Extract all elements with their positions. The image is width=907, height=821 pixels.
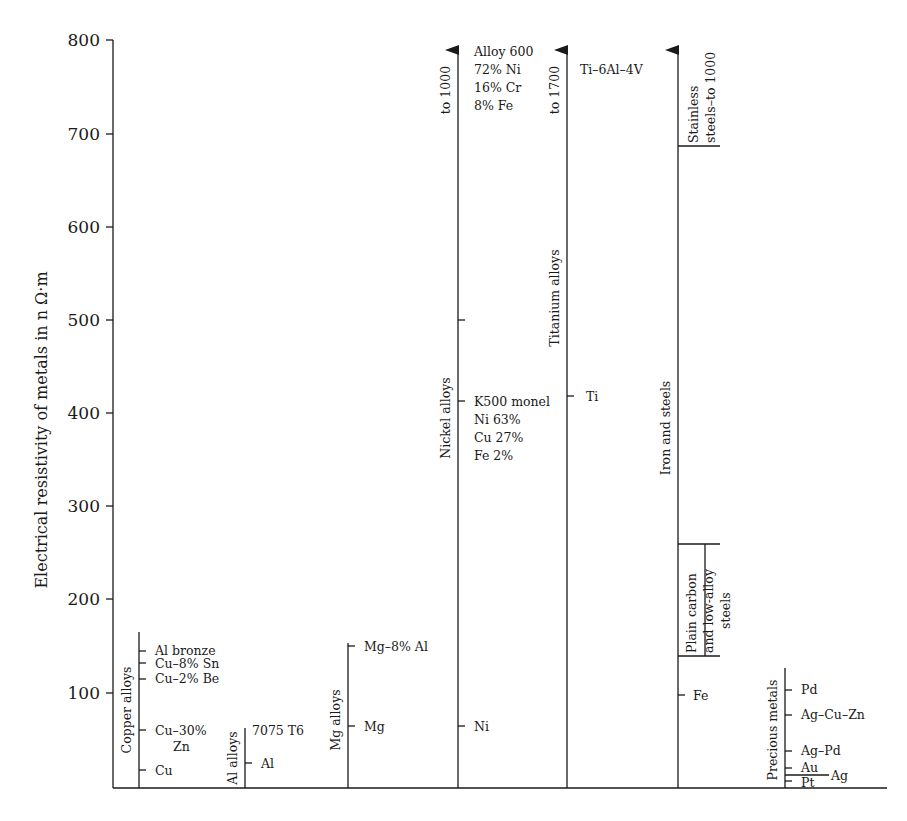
label-cu-zn: Cu–30% xyxy=(155,723,207,738)
label-alloy-600-ni: 72% Ni xyxy=(474,62,521,77)
label-plain-carbon-2: and low-alloy xyxy=(701,568,716,653)
group-label-iron: Iron and steels xyxy=(658,381,673,476)
titanium-arrow-note: to 1700 xyxy=(547,66,562,114)
group-label-al: Al alloys xyxy=(225,731,240,785)
label-k500-monel: K500 monel xyxy=(474,394,550,409)
label-mg-al: Mg–8% Al xyxy=(364,639,428,654)
label-pd: Pd xyxy=(801,682,817,697)
label-k500-cu: Cu 27% xyxy=(474,430,523,445)
label-alloy-600-fe: 8% Fe xyxy=(474,98,513,113)
nickel-arrow-note: to 1000 xyxy=(438,66,453,114)
ytick-400: 400 xyxy=(68,403,100,423)
label-alloy-600: Alloy 600 xyxy=(473,44,533,59)
y-axis-label: Electrical resistivity of metals in n Ω·… xyxy=(32,271,51,588)
ytick-600: 600 xyxy=(68,217,100,237)
label-cu-zn-2: Zn xyxy=(173,739,190,754)
label-k500-fe: Fe 2% xyxy=(474,448,513,463)
group-label-copper: Copper alloys xyxy=(119,667,134,754)
label-au: Au xyxy=(800,760,818,775)
label-pt: Pt xyxy=(801,775,814,790)
label-ti-6al-4v: Ti–6Al–4V xyxy=(580,62,644,77)
group-label-precious: Precious metals xyxy=(765,680,780,781)
label-plain-carbon-3: steels xyxy=(718,592,733,629)
group-copper-alloys: Copper alloys Al bronze Cu–8% Sn Cu–2% B… xyxy=(119,632,219,788)
label-stainless: Stainless xyxy=(686,86,701,143)
label-mg: Mg xyxy=(364,719,385,734)
label-cu-be: Cu–2% Be xyxy=(155,671,219,686)
label-ag: Ag xyxy=(830,768,848,783)
label-ag-cu-zn: Ag–Cu–Zn xyxy=(800,707,865,722)
group-label-titanium: Titanium alloys xyxy=(547,249,562,346)
group-mg-alloys: Mg alloys Mg–8% Al Mg xyxy=(328,639,428,788)
group-label-mg: Mg alloys xyxy=(328,689,343,750)
ytick-800: 800 xyxy=(68,30,100,50)
group-label-nickel: Nickel alloys xyxy=(438,377,453,458)
label-fe: Fe xyxy=(693,688,708,703)
label-alloy-600-cr: 16% Cr xyxy=(474,80,521,95)
label-stainless-2: steels–to 1000 xyxy=(703,52,718,143)
group-precious-metals: Precious metals Pd Ag–Cu–Zn Ag–Pd Au Ag … xyxy=(765,668,865,790)
label-cu-sn: Cu–8% Sn xyxy=(155,656,219,671)
label-ag-pd: Ag–Pd xyxy=(800,743,841,758)
group-iron-steels: Iron and steels Stainless steels–to 1000… xyxy=(658,50,733,788)
ytick-200: 200 xyxy=(68,589,100,609)
label-k500-ni: Ni 63% xyxy=(474,412,521,427)
ytick-700: 700 xyxy=(68,124,100,144)
resistivity-chart: 800 700 600 500 400 300 200 100 Electric… xyxy=(0,0,907,821)
label-ti: Ti xyxy=(586,389,598,404)
label-al: Al xyxy=(260,756,274,771)
ytick-300: 300 xyxy=(68,496,100,516)
label-cu: Cu xyxy=(155,763,173,778)
ytick-100: 100 xyxy=(68,683,100,703)
label-plain-carbon: Plain carbon xyxy=(684,573,699,653)
label-ni: Ni xyxy=(474,719,489,734)
group-nickel-alloys: to 1000 Nickel alloys Alloy 600 72% Ni 1… xyxy=(438,44,550,788)
ytick-500: 500 xyxy=(68,310,100,330)
group-al-alloys: Al alloys 7075 T6 Al xyxy=(225,723,304,788)
group-titanium-alloys: to 1700 Titanium alloys Ti–6Al–4V Ti xyxy=(547,50,644,788)
label-7075-t6: 7075 T6 xyxy=(252,723,304,738)
